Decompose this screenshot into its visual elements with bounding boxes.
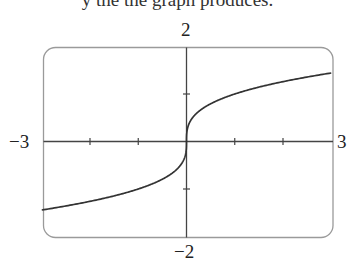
- y-max-label: 2: [181, 20, 191, 39]
- viewing-window-frame: [44, 48, 334, 238]
- x-max-label: 3: [337, 132, 347, 151]
- x-min-label: −3: [9, 132, 29, 151]
- y-min-label: −2: [174, 242, 194, 261]
- axes: [44, 48, 334, 238]
- plot-area: [0, 0, 355, 264]
